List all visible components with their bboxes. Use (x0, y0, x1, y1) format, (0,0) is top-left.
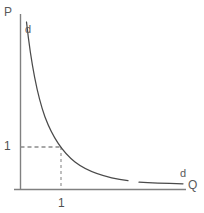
curve-label-top: d (25, 24, 31, 35)
demand-curve-main (27, 22, 129, 181)
y-axis-tick-label-1: 1 (4, 140, 11, 152)
x-axis-label: Q (188, 179, 197, 191)
demand-curve-figure: P Q d d 1 1 (0, 0, 204, 213)
curve-label-right: d (180, 168, 186, 179)
demand-curve-tail (139, 182, 183, 184)
x-axis-tick-label-1: 1 (58, 197, 65, 209)
y-axis-label: P (4, 6, 12, 18)
